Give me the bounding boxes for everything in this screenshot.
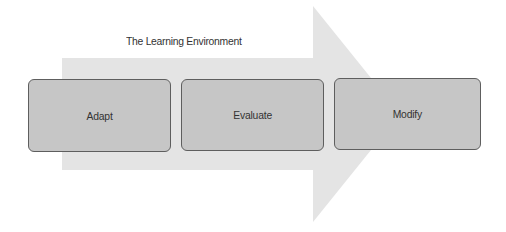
step-box-evaluate: Evaluate	[181, 79, 324, 151]
step-box-adapt: Adapt	[28, 79, 171, 152]
step-label: Adapt	[86, 110, 112, 122]
step-label: Modify	[393, 108, 422, 120]
step-label: Evaluate	[233, 109, 272, 121]
step-box-modify: Modify	[334, 78, 481, 150]
diagram-title: The Learning Environment	[126, 35, 241, 47]
